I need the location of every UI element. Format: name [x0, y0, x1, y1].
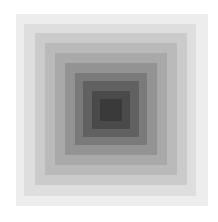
- square-band-10: [100, 99, 122, 121]
- concentric-squares-canvas: [0, 0, 218, 222]
